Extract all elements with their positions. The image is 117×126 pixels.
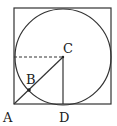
label-a: A xyxy=(2,110,13,125)
label-c: C xyxy=(63,41,73,56)
point-c-dot xyxy=(62,56,64,58)
label-b: B xyxy=(26,72,36,87)
point-b-dot xyxy=(27,88,31,92)
label-d: D xyxy=(59,110,69,125)
geometry-diagram: A B C D xyxy=(0,0,117,126)
